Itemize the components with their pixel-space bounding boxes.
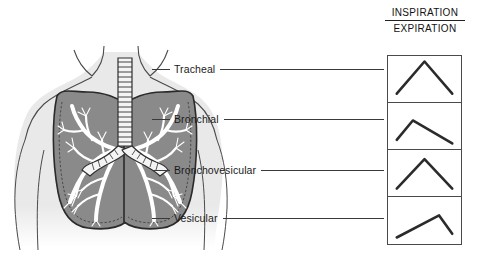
waveform-bronchial	[388, 103, 461, 149]
header-expiration: EXPIRATION	[379, 22, 471, 35]
header-divider	[385, 20, 465, 21]
waveform-vesicular	[388, 197, 461, 243]
phase-header: INSPIRATION EXPIRATION	[379, 6, 471, 35]
waveform-bronchovesicular	[388, 150, 461, 196]
lung-anatomy-illustration	[0, 0, 250, 261]
waveform-box-bronchial	[388, 103, 461, 150]
waveform-box-vesicular	[388, 197, 461, 244]
header-inspiration: INSPIRATION	[379, 6, 471, 19]
waveform-tracheal	[388, 56, 461, 102]
waveform-panel	[387, 55, 462, 245]
waveform-box-tracheal	[388, 56, 461, 103]
figure-canvas: Tracheal Bronchial Bronchovesicular Vesi…	[0, 0, 487, 261]
leader-line-right	[261, 170, 384, 171]
trachea	[118, 58, 132, 146]
waveform-box-bronchovesicular	[388, 150, 461, 197]
